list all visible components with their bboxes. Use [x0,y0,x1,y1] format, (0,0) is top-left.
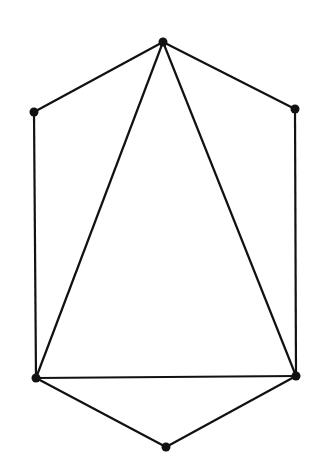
graph-canvas [0,0,320,474]
vertex-upper-right [291,105,300,114]
edge-lower-left-bottom [36,378,166,447]
edge-upper-left-lower-left [34,112,36,378]
vertex-upper-left [30,108,39,117]
edge-upper-right-lower-right [295,109,296,376]
graph-diagram [0,0,320,474]
vertex-bottom [162,443,171,452]
edge-lower-right-bottom [166,376,296,447]
vertex-top [159,38,168,47]
edge-top-upper-left [34,42,163,112]
edge-top-lower-right [163,42,296,376]
vertex-lower-left [32,374,41,383]
vertex-lower-right [292,372,301,381]
edge-top-lower-left [36,42,163,378]
edge-top-upper-right [163,42,295,109]
edge-lower-left-lower-right [36,376,296,378]
